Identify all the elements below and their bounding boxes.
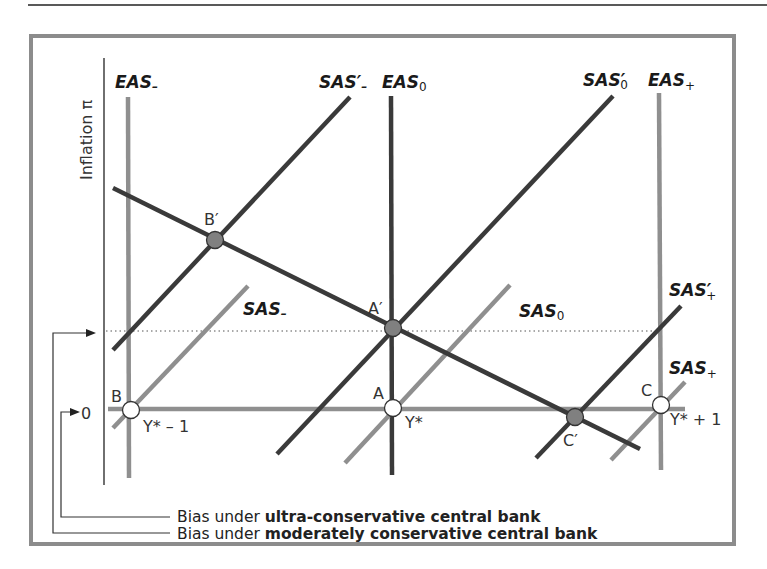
label-sas-minus-prime: SAS′–: [319, 72, 367, 94]
sas-zero-prime-line: [277, 96, 613, 454]
label-sas-plus: SAS+: [669, 358, 717, 381]
label-y-star: Y*: [404, 413, 423, 432]
label-point-c-prime: C′: [563, 431, 578, 450]
eas-zero-line: [391, 96, 392, 475]
legend-ultra-conservative: Bias under ultra-conservative central ba…: [177, 508, 541, 526]
label-point-a-prime: A′: [368, 299, 383, 318]
label-eas-minus: EAS–: [115, 72, 158, 94]
point-c-prime: [567, 409, 584, 426]
zero-label: 0: [81, 404, 91, 423]
arrow-head-bias: [86, 329, 96, 337]
point-a-prime: [385, 320, 402, 337]
point-c: [653, 397, 670, 414]
label-point-a: A: [373, 384, 384, 403]
label-eas-plus: EAS+: [648, 70, 695, 93]
arrow-head-zero: [70, 408, 80, 416]
y-axis-label: Inflation π: [77, 100, 96, 180]
eas-minus-line: [128, 97, 129, 478]
figure-frame: [31, 36, 734, 544]
point-b-prime: [207, 232, 224, 249]
label-eas-zero: EAS0: [382, 72, 427, 94]
sas-minus-prime-line: [113, 97, 350, 350]
label-sas-zero: SAS0: [519, 301, 564, 323]
point-b: [123, 402, 140, 419]
central-bank-bias-diagram: Inflation π EAS– SAS′– EAS0 SAS′0 EAS+ S…: [0, 0, 767, 569]
label-sas-zero-prime: SAS′0: [583, 70, 628, 92]
label-y-star-plus-1: Y* + 1: [669, 410, 722, 429]
label-y-star-minus-1: Y* – 1: [142, 417, 189, 436]
label-point-b-prime: B′: [204, 210, 219, 229]
label-point-c: C: [641, 381, 652, 400]
legend-moderately-conservative: Bias under moderately conservative centr…: [177, 525, 598, 543]
label-point-b: B: [111, 387, 122, 406]
point-a: [385, 400, 402, 417]
label-sas-minus: SAS–: [243, 299, 287, 321]
label-sas-plus-prime: SAS′+: [669, 280, 716, 303]
